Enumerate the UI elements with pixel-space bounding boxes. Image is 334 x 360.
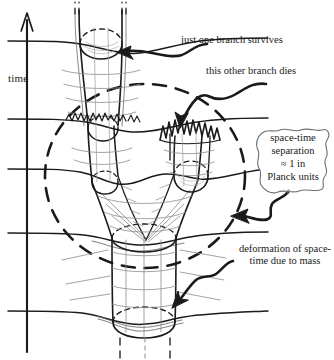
arrow-one-branch — [117, 44, 207, 59]
time-slice-3 — [8, 169, 268, 184]
arrow-deformation — [172, 261, 233, 308]
annotation-one-branch-survives: just one branch survives — [181, 34, 283, 46]
time-slice-lines — [8, 38, 268, 324]
left-branch-tube — [62, 2, 140, 194]
lower-trunk-tube — [62, 238, 226, 360]
jagged-termination — [160, 119, 220, 140]
planck-dashed-circle — [45, 84, 245, 268]
right-branch-tube — [160, 119, 220, 192]
time-slice-5 — [8, 311, 268, 324]
annotation-other-branch-dies: this other branch dies — [206, 65, 296, 77]
time-slice-2 — [8, 118, 268, 132]
callout-line-4: Planck units — [257, 170, 329, 183]
time-axis-label: time — [8, 72, 28, 84]
annotation-deformation: deformation of space-time due to mass — [238, 243, 332, 268]
time-slice-4 — [8, 232, 268, 245]
callout-line-3: ≈ 1 in — [257, 157, 329, 170]
callout-line-2: separation — [257, 144, 329, 157]
callout-line-1: space-time — [257, 131, 329, 144]
time-axis — [21, 13, 33, 352]
arrow-other-branch — [175, 84, 266, 128]
spacetime-branching-figure: time just one branch survives this other… — [0, 0, 334, 360]
planck-callout-text: space-time separation ≈ 1 in Planck unit… — [257, 131, 329, 184]
